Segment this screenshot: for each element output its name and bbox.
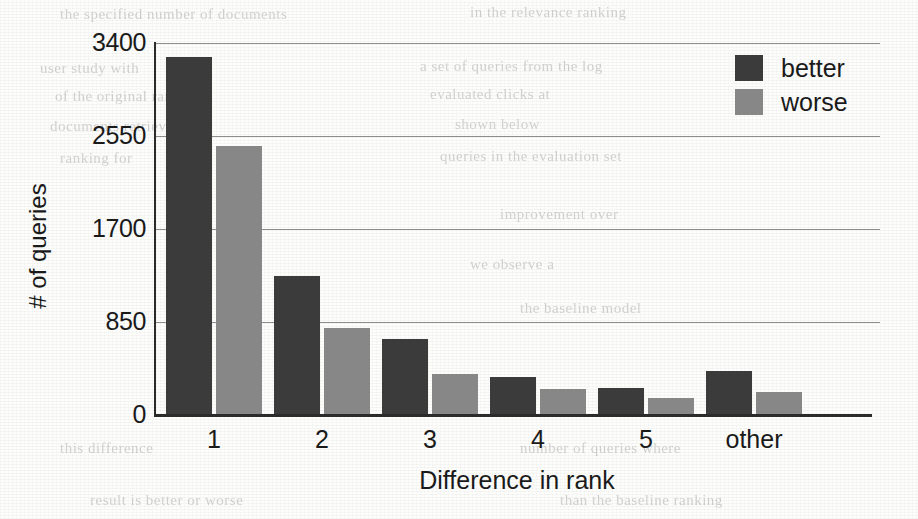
bar-worse-5 xyxy=(648,398,694,415)
bar-worse-1 xyxy=(216,146,262,415)
bar-worse-3 xyxy=(432,374,478,415)
x-axis-tick-labels: 12345other xyxy=(154,424,880,458)
bar-worse-2 xyxy=(324,328,370,415)
x-axis-line xyxy=(154,414,872,417)
y-axis-line xyxy=(154,42,156,417)
bar-better-4 xyxy=(490,377,536,415)
legend-label-worse: worse xyxy=(781,89,848,115)
legend-swatch-worse-icon xyxy=(735,89,763,115)
gridline xyxy=(154,43,880,44)
x-axis-tick-label-other: other xyxy=(686,424,822,454)
legend-item-better: better xyxy=(735,52,900,84)
bar-better-2 xyxy=(274,276,320,415)
chart-legend: better worse xyxy=(735,52,900,120)
bar-worse-other xyxy=(756,392,802,415)
bar-better-3 xyxy=(382,339,428,415)
x-axis-title: Difference in rank xyxy=(154,466,880,495)
bar-worse-4 xyxy=(540,389,586,415)
y-axis-tick-label: 3400 xyxy=(6,30,146,55)
y-axis-tick-label: 2550 xyxy=(6,123,146,148)
bar-better-5 xyxy=(598,388,644,415)
legend-item-worse: worse xyxy=(735,86,900,118)
bar-chart: 0850170025503400 # of queries 12345other… xyxy=(0,0,918,519)
legend-label-better: better xyxy=(781,55,845,81)
gridline xyxy=(154,136,880,137)
y-axis-tick-labels: 0850170025503400 xyxy=(0,0,146,519)
bar-better-other xyxy=(706,371,752,415)
legend-swatch-better-icon xyxy=(735,55,763,81)
gridline xyxy=(154,322,880,323)
y-axis-title: # of queries xyxy=(24,146,52,346)
bar-better-1 xyxy=(166,57,212,415)
gridline xyxy=(154,229,880,230)
y-axis-tick-label: 0 xyxy=(6,402,146,427)
